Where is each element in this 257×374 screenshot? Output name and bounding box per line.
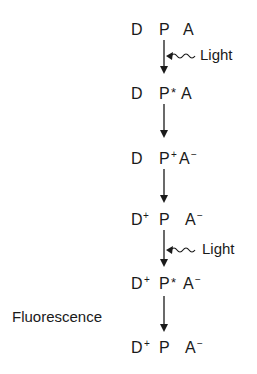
pigment-state: *: [171, 274, 176, 292]
acceptor-charge: −: [197, 335, 203, 353]
arrow-5: [160, 296, 168, 332]
acceptor-symbol: A: [181, 85, 192, 103]
donor-symbol: D: [131, 211, 143, 229]
light-label-2: Light: [202, 240, 235, 258]
acceptor-charge: −: [191, 146, 197, 164]
pigment-state: *: [171, 84, 176, 102]
light-label-1: Light: [200, 46, 233, 64]
light-wave-2-icon: [166, 246, 195, 254]
pigment-symbol: P: [159, 21, 170, 39]
pigment-symbol: P: [159, 275, 170, 293]
donor-symbol: D: [131, 339, 143, 357]
pigment-symbol: P: [159, 85, 170, 103]
fluorescence-label: Fluorescence: [12, 308, 102, 326]
donor-charge: +: [144, 271, 150, 289]
acceptor-charge: −: [197, 207, 203, 225]
acceptor-charge: −: [195, 271, 201, 289]
acceptor-symbol: A: [179, 150, 190, 168]
pigment-state: +: [171, 146, 177, 164]
donor-charge: +: [144, 335, 150, 353]
donor-symbol: D: [131, 21, 143, 39]
donor-charge: +: [143, 207, 149, 225]
acceptor-symbol: A: [183, 275, 194, 293]
pigment-symbol: P: [159, 150, 170, 168]
acceptor-symbol: A: [185, 339, 196, 357]
donor-symbol: D: [131, 275, 143, 293]
acceptor-symbol: A: [183, 21, 194, 39]
arrow-2: [160, 104, 168, 138]
donor-symbol: D: [131, 85, 143, 103]
light-wave-1-icon: [166, 52, 195, 60]
arrow-1: [160, 40, 168, 74]
pigment-symbol: P: [159, 211, 170, 229]
acceptor-symbol: A: [185, 211, 196, 229]
arrow-4: [160, 230, 168, 267]
arrow-3: [160, 169, 168, 203]
pigment-symbol: P: [159, 339, 170, 357]
donor-symbol: D: [131, 150, 143, 168]
